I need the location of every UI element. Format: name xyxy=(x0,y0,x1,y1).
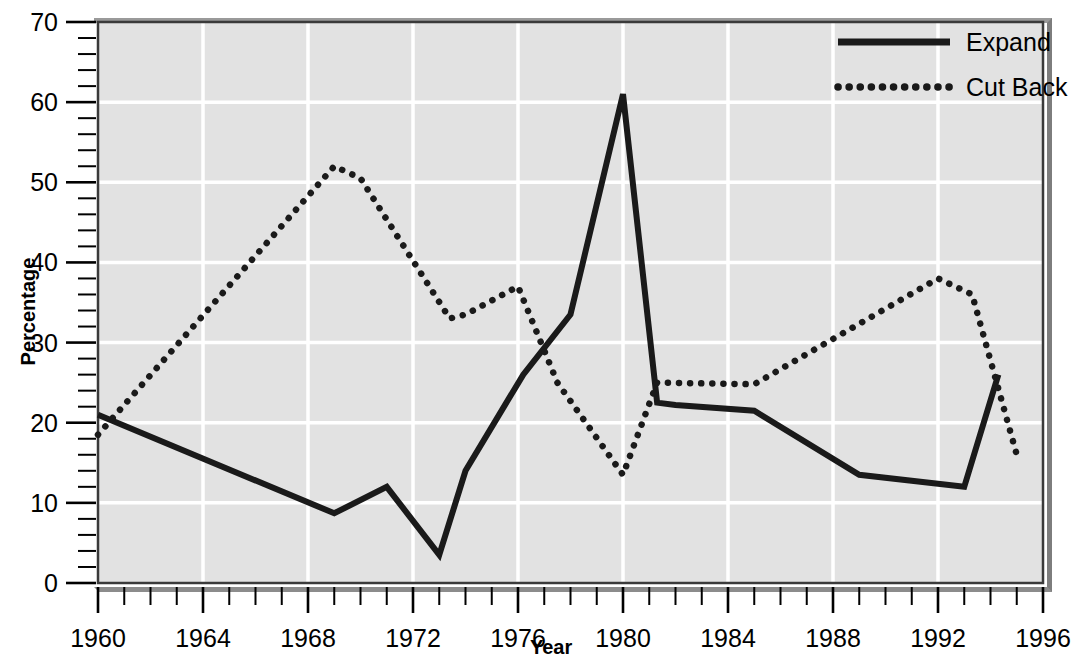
x-tick-label: 1984 xyxy=(700,624,756,652)
y-tick-label: 70 xyxy=(30,8,58,36)
x-tick-label: 1960 xyxy=(70,624,126,652)
chart-figure: 0102030405060701960196419681972197619801… xyxy=(0,0,1080,666)
y-tick-label: 30 xyxy=(30,329,58,357)
frame-bevel-right xyxy=(1047,18,1052,592)
x-axis-title-wrap: Year xyxy=(530,636,572,659)
y-tick-label: 40 xyxy=(30,248,58,276)
x-tick-label: 1964 xyxy=(175,624,231,652)
y-tick-label: 20 xyxy=(30,409,58,437)
y-tick-label: 60 xyxy=(30,88,58,116)
y-axis: 010203040506070 xyxy=(30,8,96,597)
x-tick-label: 1988 xyxy=(805,624,861,652)
frame-bevel-bottom xyxy=(94,587,1052,592)
legend-label: Cut Back xyxy=(966,73,1068,101)
x-axis-title: Year xyxy=(530,636,572,658)
y-tick-label: 10 xyxy=(30,489,58,517)
x-tick-label: 1972 xyxy=(385,624,441,652)
x-tick-label: 1992 xyxy=(910,624,966,652)
legend-label: Expand xyxy=(966,28,1051,56)
y-tick-label: 0 xyxy=(44,569,58,597)
x-tick-label: 1968 xyxy=(280,624,336,652)
line-chart: 0102030405060701960196419681972197619801… xyxy=(0,0,1080,666)
x-tick-label: 1996 xyxy=(1015,624,1071,652)
x-tick-label: 1980 xyxy=(595,624,651,652)
y-tick-label: 50 xyxy=(30,168,58,196)
